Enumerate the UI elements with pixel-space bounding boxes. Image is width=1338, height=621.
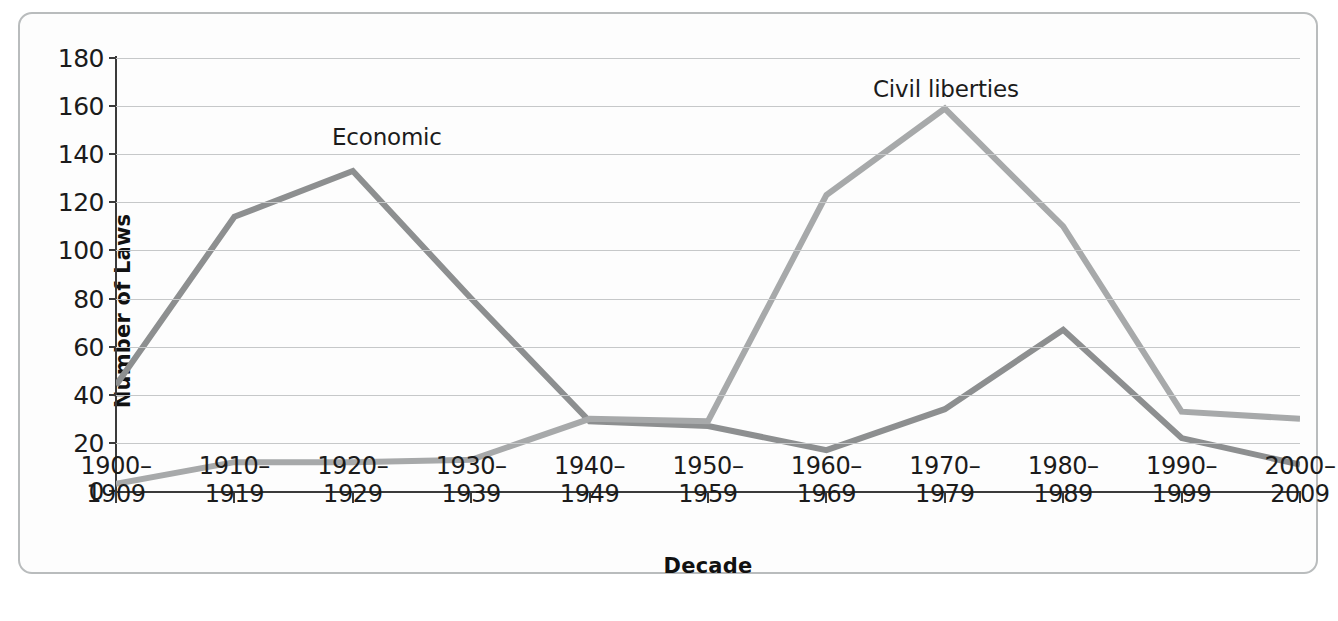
y-tick-label: 180 [58,44,104,73]
x-tick-label: 1930–1939 [436,452,507,509]
y-tick-mark [109,442,116,444]
gridline [116,299,1300,300]
gridline [116,347,1300,348]
y-tick-label: 100 [58,236,104,265]
x-tick-label-line: 1940– [554,452,625,480]
x-tick-label-line: 1990– [1146,452,1217,480]
y-tick-mark [109,201,116,203]
gridline [116,202,1300,203]
x-axis-title: Decade [116,554,1300,578]
gridline [116,395,1300,396]
x-tick-label-line: 1920– [317,452,388,480]
y-tick-label: 120 [58,188,104,217]
x-tick-label-line: 1910– [199,452,270,480]
x-tick-label: 1980–1989 [1028,452,1099,509]
gridline [116,106,1300,107]
line-chart: Number of Laws Decade 020406080100120140… [0,0,1338,621]
x-tick-label-line: 1969 [791,480,862,508]
series-label-civil-liberties: Civil liberties [873,76,1019,102]
x-tick-label-line: 1999 [1146,480,1217,508]
y-tick-mark [109,105,116,107]
x-tick-label-line: 1939 [436,480,507,508]
y-tick-mark [109,346,116,348]
x-tick-label-line: 1929 [317,480,388,508]
y-tick-label: 60 [73,332,104,361]
x-tick-label: 1990–1999 [1146,452,1217,509]
x-tick-label: 1960–1969 [791,452,862,509]
x-tick-label: 1910–1919 [199,452,270,509]
x-tick-label-line: 1970– [909,452,980,480]
x-tick-label-line: 2009 [1264,480,1335,508]
x-tick-label-line: 1919 [199,480,270,508]
y-tick-mark [109,298,116,300]
x-tick-label: 1940–1949 [554,452,625,509]
gridline [116,250,1300,251]
gridline [116,58,1300,59]
x-tick-label-line: 1900– [80,452,151,480]
y-tick-mark [109,153,116,155]
x-tick-label-line: 1959 [672,480,743,508]
x-tick-label: 2000–2009 [1264,452,1335,509]
x-tick-label: 1920–1929 [317,452,388,509]
y-tick-mark [109,394,116,396]
x-tick-label-line: 1950– [672,452,743,480]
x-tick-label-line: 1949 [554,480,625,508]
x-tick-label: 1950–1959 [672,452,743,509]
gridline [116,154,1300,155]
x-tick-label-line: 2000– [1264,452,1335,480]
x-tick-label: 1970–1979 [909,452,980,509]
y-tick-mark [109,57,116,59]
x-tick-label-line: 1909 [80,480,151,508]
x-tick-label-line: 1930– [436,452,507,480]
y-tick-label: 140 [58,140,104,169]
y-tick-mark [109,249,116,251]
x-tick-label: 1900–1909 [80,452,151,509]
y-tick-label: 40 [73,380,104,409]
series-lines [116,58,1300,491]
gridline [116,443,1300,444]
plot-area: 020406080100120140160180 [116,58,1300,491]
x-tick-label-line: 1960– [791,452,862,480]
x-tick-label-line: 1980– [1028,452,1099,480]
x-tick-label-line: 1979 [909,480,980,508]
series-label-economic: Economic [332,124,442,150]
x-tick-label-line: 1989 [1028,480,1099,508]
y-tick-label: 160 [58,92,104,121]
y-tick-label: 80 [73,284,104,313]
